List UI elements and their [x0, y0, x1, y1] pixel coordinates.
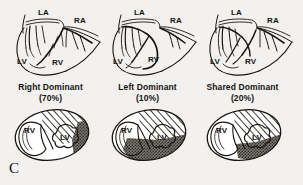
cross-label-lv-right-dominant: LV: [60, 133, 70, 142]
heart-posterior-view-right-dominant: LA RA LV RV: [0, 2, 101, 82]
label-la-left-dominant: LA: [134, 8, 145, 17]
caption-text-right-dominant: Right Dominant: [18, 82, 83, 92]
cross-section-right-dominant: RV LV: [0, 104, 101, 166]
cross-section-shared-dominant: RV LV: [192, 104, 293, 166]
heart-posterior-view-shared-dominant: LA RA LV RV: [192, 2, 293, 82]
label-rv-left-dominant: RV: [148, 55, 160, 64]
label-rv-right-dominant: RV: [52, 58, 64, 67]
cross-label-lv-shared-dominant: LV: [252, 133, 262, 142]
label-ra-right-dominant: RA: [74, 16, 86, 25]
caption-shared-dominant: Shared Dominant (20%): [192, 82, 293, 103]
cross-label-rv-right-dominant: RV: [24, 126, 36, 135]
panel-letter: C: [9, 160, 20, 177]
label-la-right-dominant: LA: [38, 8, 49, 17]
cross-label-rv-shared-dominant: RV: [216, 126, 228, 135]
label-lv-right-dominant: LV: [17, 57, 27, 66]
panel-shared-dominant: LA RA LV RV Shared Dominant (20%): [192, 0, 293, 185]
label-ra-shared-dominant: RA: [267, 16, 279, 25]
label-la-shared-dominant: LA: [231, 8, 242, 17]
coronary-dominance-figure: LA RA LV RV Right Dominant (70%): [0, 0, 303, 185]
caption-text-shared-dominant: Shared Dominant: [207, 82, 279, 92]
cross-section-left-dominant: RV LV: [97, 104, 198, 166]
label-rv-shared-dominant: RV: [245, 57, 257, 66]
panel-right-dominant: LA RA LV RV Right Dominant (70%): [0, 0, 101, 185]
cross-label-rv-left-dominant: RV: [121, 126, 133, 135]
caption-percent-left-dominant: (10%): [97, 93, 198, 104]
heart-posterior-view-left-dominant: LA RA LV RV: [97, 2, 198, 82]
caption-left-dominant: Left Dominant (10%): [97, 82, 198, 103]
label-lv-left-dominant: LV: [113, 57, 123, 66]
cross-label-lv-left-dominant: LV: [157, 133, 167, 142]
caption-percent-right-dominant: (70%): [0, 93, 101, 104]
label-ra-left-dominant: RA: [170, 16, 182, 25]
caption-right-dominant: Right Dominant (70%): [0, 82, 101, 103]
caption-text-left-dominant: Left Dominant: [118, 82, 176, 92]
panel-left-dominant: LA RA LV RV Left Dominant (10%): [97, 0, 198, 185]
label-lv-shared-dominant: LV: [210, 57, 220, 66]
caption-percent-shared-dominant: (20%): [192, 93, 293, 104]
